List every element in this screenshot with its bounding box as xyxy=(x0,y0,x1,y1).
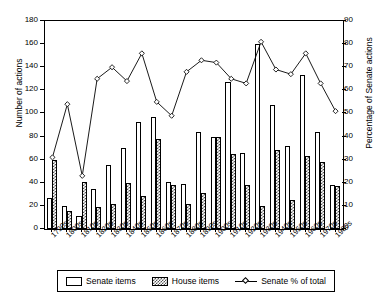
y-tick-label-left: 140 xyxy=(2,62,38,70)
y-tick-label-right: 80 xyxy=(344,39,374,47)
y-tick-label-right: 10 xyxy=(344,201,374,209)
percent-marker-diamond xyxy=(65,102,70,107)
y-tick-label-right: 20 xyxy=(344,178,374,186)
percent-marker-diamond xyxy=(318,81,323,86)
line-swatch-icon xyxy=(235,277,257,286)
y-tick-label-left: 60 xyxy=(2,155,38,163)
house-swatch-icon xyxy=(152,277,168,286)
y-tick-label-right: 70 xyxy=(344,62,374,70)
chart-legend: Senate items House items Senate % of tot… xyxy=(57,270,335,292)
y-tick-label-right: 60 xyxy=(344,85,374,93)
chart-container: Number of actions Percentage of Senate a… xyxy=(0,0,382,302)
y-tick-label-left: 0 xyxy=(2,224,38,232)
percent-line-path xyxy=(52,42,335,176)
y-tick-label-left: 120 xyxy=(2,85,38,93)
legend-label-percent: Senate % of total xyxy=(261,276,326,286)
legend-item-senate: Senate items xyxy=(66,276,136,286)
y-tick-label-right: 30 xyxy=(344,155,374,163)
y-tick-label-left: 100 xyxy=(2,108,38,116)
y-tick-label-left: 160 xyxy=(2,39,38,47)
y-tick-label-left: 40 xyxy=(2,178,38,186)
legend-item-house: House items xyxy=(152,276,219,286)
legend-label-senate: Senate items xyxy=(86,276,136,286)
percent-line-series xyxy=(45,21,343,229)
percent-marker-diamond xyxy=(333,109,338,114)
senate-swatch-icon xyxy=(66,277,82,286)
y-tick-label-left: 20 xyxy=(2,201,38,209)
legend-item-percent: Senate % of total xyxy=(235,276,326,286)
percent-marker-diamond xyxy=(273,67,278,72)
legend-label-house: House items xyxy=(172,276,219,286)
y-tick-label-right: 40 xyxy=(344,132,374,140)
percent-marker-diamond xyxy=(50,155,55,160)
plot-area xyxy=(44,20,344,230)
percent-marker-diamond xyxy=(259,39,264,44)
y-tick-label-right: 50 xyxy=(344,108,374,116)
percent-marker-diamond xyxy=(244,81,249,86)
y-tick-label-left: 80 xyxy=(2,132,38,140)
y-tick-label-right: 90 xyxy=(344,16,374,24)
percent-marker-diamond xyxy=(139,51,144,56)
y-tick-label-left: 180 xyxy=(2,16,38,24)
percent-marker-diamond xyxy=(80,173,85,178)
